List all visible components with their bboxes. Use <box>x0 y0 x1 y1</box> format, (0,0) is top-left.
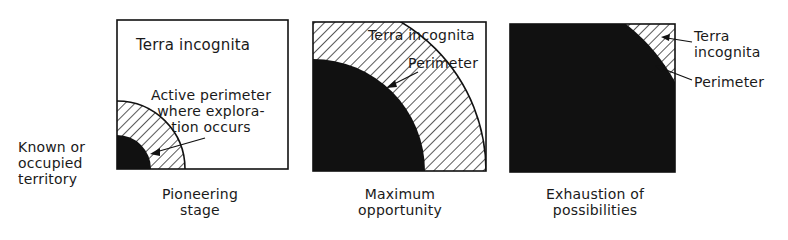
caption-exhaustion: Exhaustion of possibilities <box>520 186 670 218</box>
caption-line: opportunity <box>330 202 470 218</box>
label-line: Known or <box>18 139 85 155</box>
label-line: Active perimeter <box>136 87 286 103</box>
label-line: territory <box>18 171 85 187</box>
label-line: tion occurs <box>136 119 286 135</box>
caption-maximum: Maximum opportunity <box>330 186 470 218</box>
label-line: occupied <box>18 155 85 171</box>
caption-line: Exhaustion of <box>520 186 670 202</box>
caption-pioneering: Pioneering stage <box>130 186 270 218</box>
terra-incognita-label: Terra incognita <box>368 27 475 43</box>
perimeter-label: Perimeter <box>408 55 478 71</box>
label-line: where explora- <box>136 103 286 119</box>
known-territory-label: Known or occupied territory <box>18 139 85 187</box>
terra-incognita-label: Terra incognita <box>694 28 761 60</box>
label-line: incognita <box>694 44 761 60</box>
caption-line: Pioneering <box>130 186 270 202</box>
caption-line: possibilities <box>520 202 670 218</box>
caption-line: Maximum <box>330 186 470 202</box>
perimeter-label: Perimeter <box>694 74 764 90</box>
active-perimeter-label: Active perimeter where explora- tion occ… <box>136 87 286 135</box>
label-line: Terra <box>694 28 761 44</box>
terra-incognita-label: Terra incognita <box>136 37 250 53</box>
caption-line: stage <box>130 202 270 218</box>
